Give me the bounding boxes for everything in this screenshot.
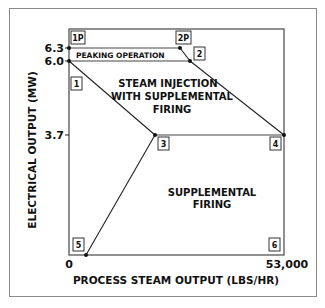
label-box-6: 6 xyxy=(269,238,280,251)
svg-text:1: 1 xyxy=(74,80,80,89)
chart: 6.3 6.0 3.7 0 53,000 PROCESS STEAM OUTPU… xyxy=(0,0,325,308)
y-tick-6-0: 6.0 xyxy=(45,55,65,68)
x-axis-title: PROCESS STEAM OUTPUT (LBS/HR) xyxy=(73,274,279,286)
point-5 xyxy=(84,253,88,257)
label-box-1: 1 xyxy=(71,77,82,90)
x-tick-53000: 53,000 xyxy=(266,258,309,271)
x-tick-0: 0 xyxy=(65,258,73,271)
label-box-1p: 1P xyxy=(71,31,85,44)
point-2 xyxy=(188,59,192,63)
svg-text:3: 3 xyxy=(161,140,167,149)
y-tick-6-3: 6.3 xyxy=(45,42,65,55)
label-box-5: 5 xyxy=(73,238,84,251)
label-box-2: 2 xyxy=(194,47,205,60)
label-box-3: 3 xyxy=(158,137,169,150)
line-2p-2 xyxy=(180,48,190,61)
point-2p xyxy=(178,46,182,50)
line-5-3 xyxy=(86,135,155,255)
svg-text:1P: 1P xyxy=(72,34,84,43)
svg-text:5: 5 xyxy=(76,241,82,250)
region-supplemental-line1: SUPPLEMENTAL xyxy=(168,187,257,198)
region-steam-injection-line2: WITH SUPPLEMENTAL xyxy=(111,91,234,102)
region-supplemental-line2: FIRING xyxy=(193,199,232,210)
label-box-2p: 2P xyxy=(176,31,191,44)
svg-text:6: 6 xyxy=(272,241,278,250)
svg-text:2: 2 xyxy=(197,50,203,59)
point-4 xyxy=(282,133,286,137)
svg-text:2P: 2P xyxy=(178,34,190,43)
region-peaking-operation: PEAKING OPERATION xyxy=(76,51,165,60)
plot-area xyxy=(69,29,284,255)
point-3 xyxy=(153,133,157,137)
label-box-4: 4 xyxy=(270,137,281,150)
region-steam-injection-line3: FIRING xyxy=(153,104,192,115)
y-axis-title: ELECTRICAL OUTPUT (MW) xyxy=(26,71,38,228)
y-tick-3-7: 3.7 xyxy=(45,129,65,142)
region-steam-injection-line1: STEAM INJECTION xyxy=(118,78,217,89)
svg-text:4: 4 xyxy=(273,140,279,149)
